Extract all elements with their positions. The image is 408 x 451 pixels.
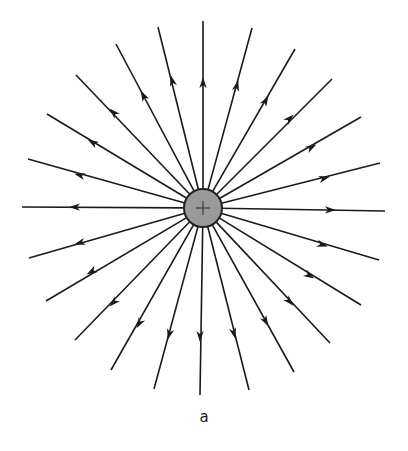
arrowhead-icon (110, 108, 120, 118)
field-line (111, 223, 195, 370)
field-line (211, 223, 294, 372)
arrowhead-icon (74, 173, 86, 180)
field-line (47, 114, 188, 199)
field-line (29, 213, 187, 258)
field-line (207, 28, 252, 192)
figure-caption: a (0, 408, 408, 426)
field-line (219, 163, 380, 204)
field-line (46, 217, 188, 301)
field-line (220, 208, 385, 211)
field-line (218, 117, 361, 200)
arrowhead-icon (141, 91, 149, 102)
field-line-diagram (0, 0, 408, 451)
arrowhead-icon (196, 331, 203, 342)
arrowhead-icon (87, 266, 98, 275)
field-line (219, 213, 379, 260)
field-line (200, 225, 203, 395)
arrowhead-icon (283, 295, 293, 305)
arrowhead-icon (74, 238, 86, 245)
field-line (116, 44, 195, 193)
arrowhead-icon (170, 75, 177, 87)
arrowhead-icon (318, 176, 330, 183)
field-line (75, 220, 191, 340)
arrowhead-icon (110, 296, 120, 306)
arrowhead-icon (316, 240, 328, 247)
field-line (154, 224, 199, 389)
arrowhead-icon (229, 327, 236, 339)
field-line (22, 207, 186, 208)
field-line (212, 49, 295, 193)
arrowhead-icon (260, 96, 269, 107)
field-line (217, 217, 361, 305)
positive-charge (184, 189, 222, 227)
